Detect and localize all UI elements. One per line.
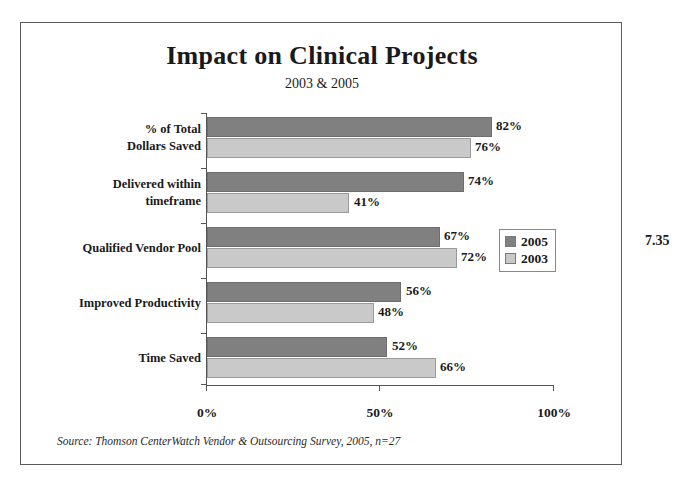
legend-label: 2003 bbox=[521, 252, 548, 265]
figure-root: Impact on Clinical Projects 2003 & 2005 … bbox=[0, 0, 690, 486]
y-axis-tick bbox=[201, 278, 206, 279]
y-axis-tick bbox=[201, 333, 206, 334]
bar-value-label: 52% bbox=[392, 338, 418, 354]
category-label-line: Delivered within bbox=[41, 176, 201, 193]
category-axis-labels: % of Total Dollars Saved Delivered withi… bbox=[39, 113, 201, 385]
legend-swatch-icon bbox=[505, 253, 516, 264]
category-label-line: Qualified Vendor Pool bbox=[41, 240, 201, 257]
x-axis-tick bbox=[379, 385, 380, 391]
x-axis-tick-label-100: 100% bbox=[537, 405, 571, 421]
category-label-line: Improved Productivity bbox=[41, 295, 201, 312]
bar-2003[interactable] bbox=[207, 138, 471, 158]
category-label-line: Time Saved bbox=[41, 350, 201, 367]
bar-row: 56% bbox=[207, 282, 554, 302]
category-label-line: timeframe bbox=[41, 193, 201, 210]
chart-subtitle: 2003 & 2005 bbox=[21, 76, 623, 92]
bar-row: 76% bbox=[207, 138, 554, 158]
category-label-line: % of Total bbox=[41, 121, 201, 138]
bar-2005[interactable] bbox=[207, 117, 492, 137]
category-label-qualified-vendor-pool: Qualified Vendor Pool bbox=[41, 240, 201, 257]
bar-row: 52% bbox=[207, 337, 554, 357]
bar-2005[interactable] bbox=[207, 282, 401, 302]
legend-swatch-icon bbox=[505, 236, 516, 247]
x-axis-tick bbox=[553, 385, 554, 391]
bar-2005[interactable] bbox=[207, 337, 387, 357]
legend-item-2005[interactable]: 2005 bbox=[505, 233, 548, 250]
bar-2005[interactable] bbox=[207, 227, 440, 247]
legend-item-2003[interactable]: 2003 bbox=[505, 250, 548, 267]
category-label-improved-productivity: Improved Productivity bbox=[41, 295, 201, 312]
bar-value-label: 74% bbox=[468, 173, 494, 189]
bar-2003[interactable] bbox=[207, 248, 457, 268]
bar-row: 66% bbox=[207, 358, 554, 378]
legend-label: 2005 bbox=[521, 235, 548, 248]
x-axis-line bbox=[206, 385, 554, 386]
category-label-time-saved: Time Saved bbox=[41, 350, 201, 367]
bar-value-label: 48% bbox=[378, 304, 404, 320]
y-axis-tick bbox=[201, 168, 206, 169]
bar-row: 41% bbox=[207, 193, 554, 213]
bar-group-improved-productivity: 56% 48% bbox=[207, 282, 554, 323]
figure-number: 7.35 bbox=[645, 233, 670, 249]
category-label-dollars-saved: % of Total Dollars Saved bbox=[41, 121, 201, 155]
chart-frame: Impact on Clinical Projects 2003 & 2005 … bbox=[20, 22, 622, 465]
bar-group-time-saved: 52% 66% bbox=[207, 337, 554, 378]
bar-group-delivered-within-timeframe: 74% 41% bbox=[207, 172, 554, 213]
x-axis-tick-label-0: 0% bbox=[197, 405, 217, 421]
x-axis-tick bbox=[206, 385, 207, 391]
chart-title: Impact on Clinical Projects bbox=[21, 41, 623, 71]
category-label-line: Dollars Saved bbox=[41, 138, 201, 155]
bar-value-label: 66% bbox=[440, 359, 466, 375]
bar-row: 74% bbox=[207, 172, 554, 192]
bar-2005[interactable] bbox=[207, 172, 464, 192]
source-note: Source: Thomson CenterWatch Vendor & Out… bbox=[57, 435, 400, 447]
bar-value-label: 76% bbox=[475, 139, 501, 155]
bar-value-label: 82% bbox=[496, 118, 522, 134]
bar-group-dollars-saved: 82% 76% bbox=[207, 117, 554, 158]
bar-value-label: 72% bbox=[461, 249, 487, 265]
bar-value-label: 41% bbox=[354, 194, 380, 210]
category-label-delivered-within-timeframe: Delivered within timeframe bbox=[41, 176, 201, 210]
bar-2003[interactable] bbox=[207, 303, 374, 323]
bar-row: 48% bbox=[207, 303, 554, 323]
y-axis-tick bbox=[201, 223, 206, 224]
bar-2003[interactable] bbox=[207, 358, 436, 378]
bar-value-label: 56% bbox=[406, 283, 432, 299]
chart-legend: 2005 2003 bbox=[499, 229, 556, 272]
y-axis-tick bbox=[201, 113, 206, 114]
bar-value-label: 67% bbox=[444, 228, 470, 244]
bar-2003[interactable] bbox=[207, 193, 349, 213]
bar-row: 82% bbox=[207, 117, 554, 137]
x-axis-tick-label-50: 50% bbox=[367, 405, 394, 421]
